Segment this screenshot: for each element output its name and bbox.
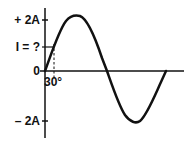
y-label-minus-2a: – 2A [0,115,40,127]
y-label-current-unknown: I = ? [0,41,40,53]
sine-curve [45,16,166,123]
y-label-origin: 0 [0,65,40,77]
sine-wave-figure: + 2A I = ? 0 – 2A 30° [0,0,190,141]
y-label-plus-2a: + 2A [0,14,40,26]
x-label-30-degrees: 30° [44,76,62,88]
